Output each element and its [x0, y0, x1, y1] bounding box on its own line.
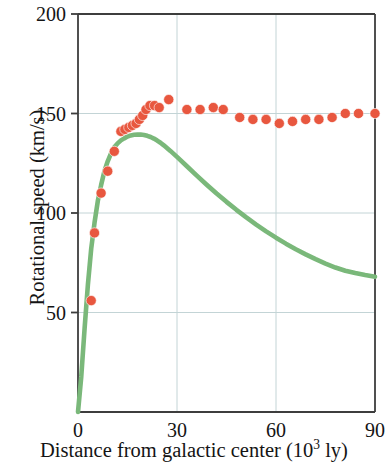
gridlines [78, 14, 375, 412]
x-tick-label: 0 [48, 420, 108, 440]
x-tick-label: 90 [345, 420, 388, 440]
chart-canvas [0, 0, 388, 464]
axis-ticks [71, 14, 78, 313]
rotation-curve-figure: Rotational speed (km/s) Distance from ga… [0, 0, 388, 464]
y-tick-label: 50 [8, 303, 66, 323]
observed-speed-points [86, 94, 380, 305]
y-tick-label: 200 [8, 4, 66, 24]
x-axis-title-tail: ly) [320, 439, 348, 461]
x-tick-label: 30 [147, 420, 207, 440]
y-tick-label: 150 [8, 104, 66, 124]
y-tick-label: 100 [8, 203, 66, 223]
x-axis-title: Distance from galactic center (103 ly) [0, 437, 388, 462]
x-tick-label: 60 [246, 420, 306, 440]
x-axis-title-main: Distance from galactic center (10 [40, 439, 313, 461]
predicted-speed-curve [78, 135, 375, 412]
